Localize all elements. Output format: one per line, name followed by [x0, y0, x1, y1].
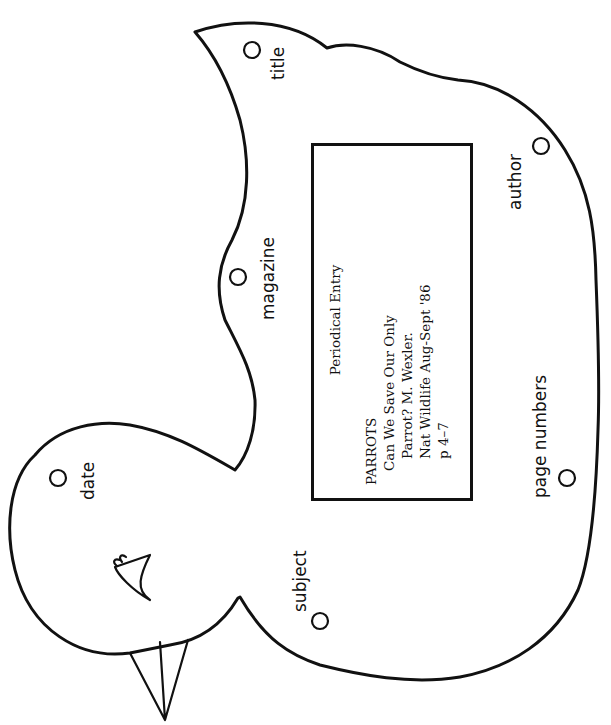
- entry-subject: PARROTS: [362, 155, 380, 485]
- label-title: title: [268, 47, 288, 80]
- hole-title: [244, 42, 260, 58]
- label-magazine: magazine: [258, 237, 278, 320]
- label-date: date: [78, 462, 98, 500]
- entry-pages-line: p 4–7: [434, 155, 452, 485]
- entry-heading: Periodical Entry: [326, 155, 344, 485]
- label-page-numbers: page numbers: [530, 375, 550, 498]
- bird-diagram: [0, 0, 611, 725]
- entry-text: Periodical Entry PARROTS Can We Save Our…: [326, 155, 452, 485]
- hole-page-numbers: [559, 470, 575, 486]
- entry-title-line-2: Parrot? M. Wexler.: [398, 155, 416, 485]
- label-author: author: [505, 154, 525, 210]
- entry-magazine-line: Nat Wildlife Aug-Sept '86: [416, 155, 434, 485]
- hole-subject: [312, 613, 328, 629]
- hole-magazine: [230, 269, 246, 285]
- hole-author: [533, 138, 549, 154]
- label-subject: subject: [290, 550, 310, 612]
- hole-date: [50, 470, 66, 486]
- entry-title-line-1: Can We Save Our Only: [380, 155, 398, 485]
